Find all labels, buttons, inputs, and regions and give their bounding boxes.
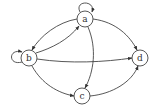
node-d-label: d (137, 53, 143, 63)
node-b-label: b (26, 53, 32, 63)
node-a-label: a (82, 14, 88, 24)
directed-graph: a b c d (0, 0, 155, 106)
node-d: d (132, 50, 148, 66)
node-c: c (74, 88, 90, 104)
edge-a-c (85, 27, 93, 88)
edge-b-d (37, 58, 132, 62)
node-c-label: c (79, 91, 84, 101)
edge-b-c (32, 66, 74, 96)
edge-c-d (90, 66, 138, 96)
edge-a-d (93, 19, 137, 50)
edge-b-a (36, 26, 79, 53)
node-a: a (77, 11, 93, 27)
edge-b-b (12, 51, 23, 62)
node-b: b (21, 50, 37, 66)
